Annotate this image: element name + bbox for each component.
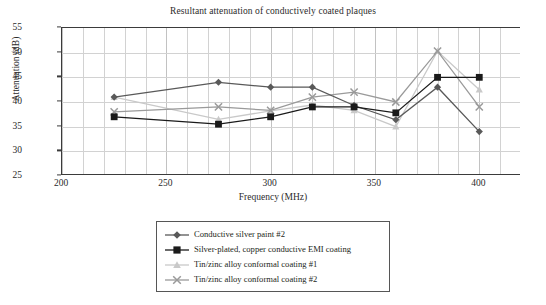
y-tick-mark [57,51,61,52]
y-tick-mark [57,26,61,27]
x-tick-label: 200 [31,178,91,188]
legend-label: Conductive silver paint #2 [194,230,285,239]
legend-marker-triangle-icon [164,259,190,271]
plot-area [61,27,520,175]
y-tick-mark [57,174,61,175]
data-point-x [476,103,483,110]
data-point-square [476,74,483,81]
series-square [111,74,483,128]
legend-marker-diamond-icon [164,229,190,241]
data-point-square [111,113,118,120]
data-point-diamond [267,84,274,91]
legend-marker-x-icon [164,274,190,286]
data-point-square [215,121,222,128]
legend-label: Tin/zinc alloy conformal coating #2 [194,275,317,284]
x-tick-label: 300 [240,178,300,188]
x-tick-label: 250 [135,178,195,188]
x-tick-label: 400 [448,178,508,188]
y-tick-label: 30 [0,145,22,155]
legend-label: Tin/zinc alloy conformal coating #1 [194,260,317,269]
y-tick-mark [57,125,61,126]
data-point-square [351,104,358,111]
chart-legend: Conductive silver paint #2 Silver-plated… [156,221,390,292]
data-point-square [173,246,180,253]
x-tick-label: 350 [344,178,404,188]
legend-marker-square-icon [164,244,190,256]
x-axis-label: Frequency (MHz) [0,192,546,202]
legend-item[interactable]: Tin/zinc alloy conformal coating #2 [164,272,389,287]
y-tick-mark [57,100,61,101]
data-point-diamond [309,84,316,91]
data-point-diamond [173,231,181,239]
series-line [114,77,479,124]
series-layer [62,28,521,176]
y-axis-label: Attenuation (dB) [11,9,21,129]
chart-title: Resultant attenuation of conductively co… [0,6,546,16]
series-line [114,51,479,112]
data-point-square [309,104,316,111]
series-triangle [111,48,483,130]
chart-page: Resultant attenuation of conductively co… [0,0,546,305]
legend-item[interactable]: Conductive silver paint #2 [164,227,389,242]
legend-item[interactable]: Tin/zinc alloy conformal coating #1 [164,257,389,272]
data-point-diamond [215,79,222,86]
data-point-square [392,109,399,116]
y-tick-mark [57,76,61,77]
legend-label: Silver-plated, copper conductive EMI coa… [194,245,351,254]
legend-item[interactable]: Silver-plated, copper conductive EMI coa… [164,242,389,257]
y-tick-mark [57,150,61,151]
series-x [111,48,483,116]
data-point-square [267,113,274,120]
data-point-square [434,74,441,81]
y-tick-label: 25 [0,170,22,180]
